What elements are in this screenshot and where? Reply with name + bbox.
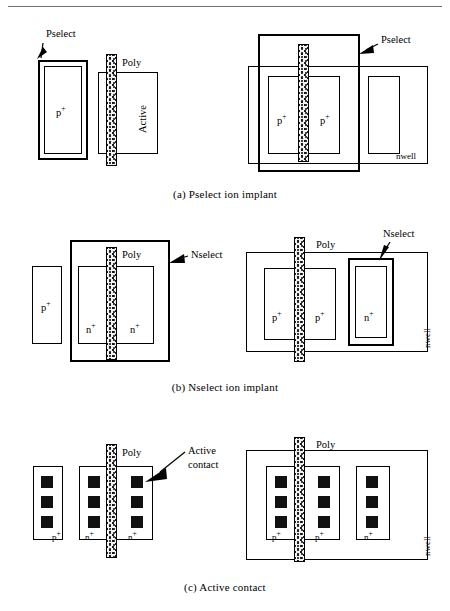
contact-square xyxy=(366,496,378,508)
nplus-label: n+ xyxy=(364,530,373,542)
poly-stripe xyxy=(294,437,305,562)
contact-square xyxy=(318,496,330,508)
contact-square xyxy=(366,516,378,528)
poly-label: Poly xyxy=(316,440,335,451)
nwell-label: nwell xyxy=(423,536,432,556)
contact-square xyxy=(275,476,287,488)
panel-c-caption: (c) Active contact xyxy=(0,581,450,593)
contact-square xyxy=(318,516,330,528)
contact-square xyxy=(318,476,330,488)
pplus-left-label: p+ xyxy=(272,530,281,542)
panel-c: p+ Poly n+ n+ Active contact xyxy=(0,0,450,611)
contact-square xyxy=(275,516,287,528)
figure-page: p+ Poly Active Pselect nwell xyxy=(0,0,450,611)
contact-square xyxy=(275,496,287,508)
pplus-right-label: p+ xyxy=(315,530,324,542)
contact-square xyxy=(366,476,378,488)
